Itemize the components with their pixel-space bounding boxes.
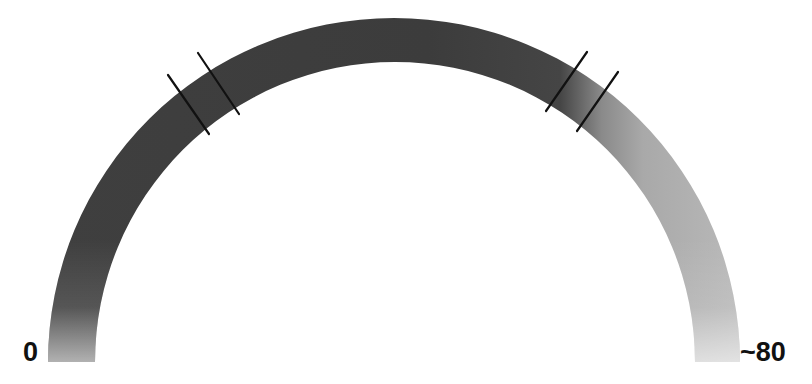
gauge-diagram [0, 0, 812, 384]
gauge-band-foot-fade [0, 0, 812, 384]
gauge-band [0, 0, 812, 384]
gauge-band-fill [48, 18, 740, 362]
end-value-label: ~80 [740, 339, 786, 366]
start-value-label: 0 [23, 339, 38, 366]
